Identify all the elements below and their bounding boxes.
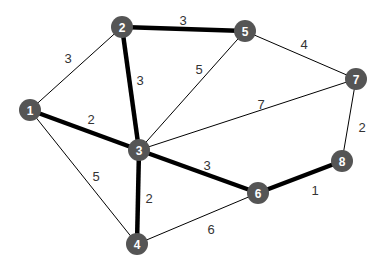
- edge-weight-7-8: 2: [358, 120, 365, 135]
- edge-4-6: [137, 193, 258, 244]
- edge-weight-2-3: 3: [136, 73, 143, 88]
- node-label: 6: [255, 187, 262, 201]
- node-label: 3: [136, 144, 143, 158]
- edge-weight-1-3: 2: [87, 112, 94, 127]
- node-label: 1: [27, 104, 34, 118]
- node-7: 7: [345, 68, 367, 90]
- node-label: 2: [119, 21, 126, 35]
- node-label: 5: [242, 25, 249, 39]
- node-label: 8: [339, 155, 346, 169]
- edge-weight-2-5: 3: [179, 13, 186, 28]
- node-5: 5: [234, 20, 256, 42]
- node-8: 8: [331, 150, 353, 172]
- node-label: 7: [353, 73, 360, 87]
- edge-weight-4-6: 6: [207, 222, 214, 237]
- edge-7-8: [342, 79, 356, 161]
- edge-3-4: [137, 150, 139, 244]
- node-3: 3: [128, 139, 150, 161]
- node-2: 2: [111, 16, 133, 38]
- graph-diagram: 3332547252361 12345678: [0, 0, 388, 268]
- edge-weight-3-5: 5: [195, 62, 202, 77]
- edge-1-2: [30, 27, 122, 110]
- edges-layer: [30, 27, 356, 244]
- edge-3-6: [139, 150, 258, 193]
- edge-2-5: [122, 27, 245, 31]
- weighted-graph: 3332547252361 12345678: [0, 0, 388, 268]
- edge-weight-1-4: 5: [92, 169, 99, 184]
- edge-weight-3-6: 3: [203, 158, 210, 173]
- edge-3-7: [139, 79, 356, 150]
- edge-weight-3-4: 2: [145, 191, 152, 206]
- edge-weight-3-7: 7: [257, 97, 264, 112]
- edge-weight-1-2: 3: [64, 51, 71, 66]
- node-4: 4: [126, 233, 148, 255]
- node-1: 1: [19, 99, 41, 121]
- node-6: 6: [247, 182, 269, 204]
- edge-6-8: [258, 161, 342, 193]
- edge-weight-labels: 3332547252361: [64, 13, 365, 237]
- node-label: 4: [134, 238, 141, 252]
- edge-weight-6-8: 1: [311, 183, 318, 198]
- edge-weight-5-7: 4: [300, 37, 307, 52]
- edge-2-3: [122, 27, 139, 150]
